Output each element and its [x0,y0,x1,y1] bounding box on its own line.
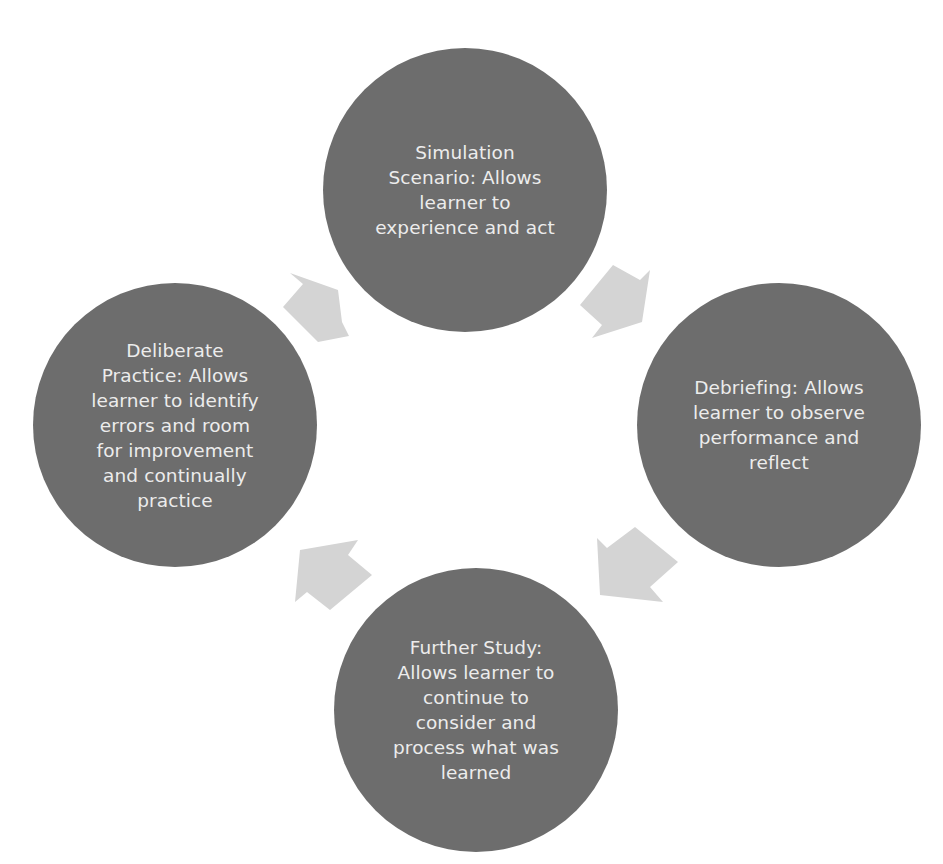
arrow-icon-further-study-to-practice [295,540,372,610]
arrow-icon-debriefing-to-further-study [597,527,678,602]
arrow-icon-practice-to-simulation [283,273,349,342]
node-further-study-label: Further Study: Allows learner to continu… [393,635,559,785]
arrow-icon-simulation-to-debriefing [580,265,650,338]
node-simulation-scenario: Simulation Scenario: Allows learner to e… [323,48,607,332]
node-debriefing: Debriefing: Allows learner to observe pe… [637,283,921,567]
node-further-study: Further Study: Allows learner to continu… [334,568,618,852]
node-deliberate-practice-label: Deliberate Practice: Allows learner to i… [91,338,259,513]
node-debriefing-label: Debriefing: Allows learner to observe pe… [693,375,865,475]
node-simulation-label: Simulation Scenario: Allows learner to e… [375,140,555,240]
node-deliberate-practice: Deliberate Practice: Allows learner to i… [33,283,317,567]
